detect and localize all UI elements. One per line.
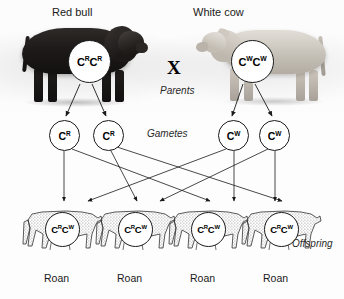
gamete-bubble: CR [93, 120, 124, 151]
genotype-text: CRCW [124, 224, 147, 235]
gamete-text: CW [268, 130, 281, 142]
phenotype-label: Roan [263, 272, 288, 284]
bull-muzzle [136, 42, 148, 53]
genotype-text: CRCW [51, 224, 74, 235]
offspring-stage-label: Offspring [292, 238, 333, 249]
gamete-bubble: CW [259, 120, 290, 151]
parents-stage-label: Parents [160, 85, 194, 96]
genetics-cross-diagram: CRCR CWCW CR CR CW CW CRCW CRCW CRCW CRC… [0, 0, 344, 299]
phenotype-label: Roan [190, 272, 215, 284]
phenotype-label: Roan [44, 272, 69, 284]
cross-symbol: X [167, 57, 181, 79]
gamete-bubble: CW [218, 120, 249, 151]
gamete-text: CR [59, 130, 71, 142]
white-cow-label: White cow [193, 6, 244, 18]
offspring-genotype-bubble: CRCW [191, 212, 226, 247]
bull-leg [34, 68, 43, 102]
offspring-genotype-bubble: CRCW [118, 212, 153, 247]
red-bull-label: Red bull [52, 6, 92, 18]
cow-leg [309, 70, 318, 101]
offspring-genotype-bubble: CRCW [45, 212, 80, 247]
parent-genotype-bubble-cow: CWCW [231, 40, 274, 83]
gamete-bubble: CR [49, 120, 80, 151]
gametes-stage-label: Gametes [147, 128, 188, 139]
phenotype-label: Roan [117, 272, 142, 284]
bull-leg [48, 70, 57, 102]
genotype-text: CWCW [239, 56, 267, 68]
genotype-text: CRCR [77, 56, 102, 68]
genotype-text: CRCW [197, 224, 220, 235]
genotype-text: CRCW [270, 224, 293, 235]
gamete-text: CR [103, 130, 115, 142]
parent-genotype-bubble-bull: CRCR [68, 40, 111, 83]
gamete-text: CW [227, 130, 240, 142]
bull-leg [115, 70, 124, 102]
cow-muzzle [196, 42, 208, 52]
